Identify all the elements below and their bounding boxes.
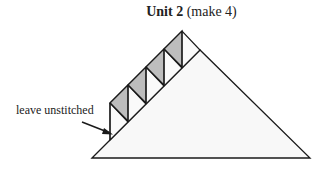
unit-diagram [0,0,327,169]
arrow-icon [82,122,113,135]
